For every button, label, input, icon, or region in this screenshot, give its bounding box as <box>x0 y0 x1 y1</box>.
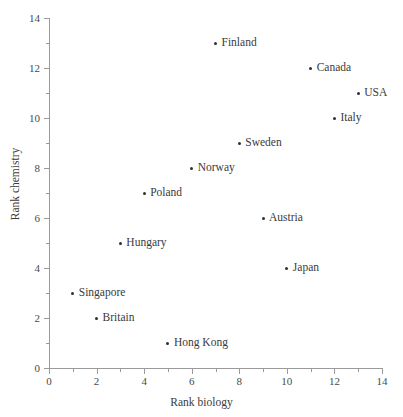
x-tick-label: 2 <box>85 376 109 387</box>
point-label: Hungary <box>126 236 166 249</box>
y-tick-major <box>44 118 49 119</box>
x-tick-label: 6 <box>180 376 204 387</box>
point-label: Singapore <box>79 286 126 299</box>
x-tick-minor <box>120 369 121 372</box>
point-marker <box>285 267 288 270</box>
point-label: Japan <box>293 261 319 274</box>
point-label: Sweden <box>245 136 281 149</box>
y-tick-major <box>44 168 49 169</box>
point-marker <box>333 117 336 120</box>
point-marker <box>143 192 146 195</box>
x-tick-minor <box>73 369 74 372</box>
point-label: Hong Kong <box>174 336 228 349</box>
point-marker <box>262 217 265 220</box>
x-tick-label: 14 <box>370 376 394 387</box>
y-tick-minor <box>46 243 49 244</box>
point-label: Britain <box>103 311 135 324</box>
y-tick-label: 12 <box>14 63 40 74</box>
y-tick-label: 4 <box>14 263 40 274</box>
x-tick-label: 10 <box>275 376 299 387</box>
point-label: Canada <box>317 61 351 74</box>
y-tick-major <box>44 318 49 319</box>
x-tick-major <box>192 369 193 374</box>
x-tick-minor <box>358 369 359 372</box>
x-tick-major <box>144 369 145 374</box>
x-tick-label: 8 <box>227 376 251 387</box>
x-tick-label: 4 <box>132 376 156 387</box>
y-axis-title: Rank chemistry <box>9 114 21 254</box>
y-axis-line <box>49 18 50 369</box>
point-label: USA <box>364 86 387 99</box>
point-marker <box>95 317 98 320</box>
point-marker <box>214 42 217 45</box>
point-marker <box>119 242 122 245</box>
point-label: Italy <box>340 111 361 124</box>
y-tick-major <box>44 18 49 19</box>
y-tick-label: 2 <box>14 313 40 324</box>
x-tick-label: 12 <box>322 376 346 387</box>
y-tick-label: 0 <box>14 363 40 374</box>
point-marker <box>238 142 241 145</box>
y-tick-minor <box>46 93 49 94</box>
y-tick-minor <box>46 293 49 294</box>
y-tick-label: 14 <box>14 13 40 24</box>
y-tick-minor <box>46 143 49 144</box>
point-marker <box>309 67 312 70</box>
x-tick-major <box>97 369 98 374</box>
x-tick-major <box>239 369 240 374</box>
x-tick-minor <box>216 369 217 372</box>
plot-area: 02468101214 02468101214 FinlandCanadaUSA… <box>0 0 403 417</box>
y-tick-minor <box>46 43 49 44</box>
point-label: Poland <box>150 186 182 199</box>
y-tick-minor <box>46 193 49 194</box>
x-tick-minor <box>168 369 169 372</box>
y-tick-major <box>44 218 49 219</box>
x-tick-minor <box>311 369 312 372</box>
point-marker <box>190 167 193 170</box>
point-marker <box>71 292 74 295</box>
y-tick-major <box>44 68 49 69</box>
y-tick-minor <box>46 343 49 344</box>
point-marker <box>166 342 169 345</box>
x-tick-major <box>287 369 288 374</box>
scatter-plot-figure: 02468101214 02468101214 FinlandCanadaUSA… <box>0 0 403 417</box>
x-tick-minor <box>263 369 264 372</box>
x-tick-label: 0 <box>37 376 61 387</box>
point-label: Norway <box>198 161 235 174</box>
x-tick-major <box>382 369 383 374</box>
point-marker <box>357 92 360 95</box>
x-axis-title: Rank biology <box>0 396 403 408</box>
point-label: Austria <box>269 211 303 224</box>
x-tick-major <box>49 369 50 374</box>
y-tick-major <box>44 268 49 269</box>
x-tick-major <box>334 369 335 374</box>
point-label: Finland <box>222 36 257 49</box>
